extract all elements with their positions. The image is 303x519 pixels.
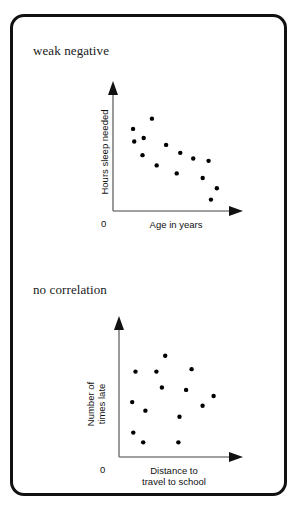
data-point	[141, 440, 145, 444]
scatter-plot-weak-negative: Hours sleep needed Age in years 0	[91, 79, 251, 239]
data-point	[164, 143, 168, 147]
x-axis-arrowhead	[229, 206, 243, 216]
data-point	[189, 367, 193, 371]
y-axis-arrowhead	[108, 81, 118, 95]
chart-title-no-correlation: no correlation	[33, 282, 107, 298]
data-point	[150, 116, 154, 120]
data-point	[175, 171, 179, 175]
x-axis-label-no-correlation: Distance to travel to school	[119, 465, 229, 487]
origin-label-weak-negative: 0	[101, 218, 106, 229]
chart-panel-no-correlation: no correlation Number of times late Dist…	[13, 258, 284, 496]
origin-label-no-correlation: 0	[100, 464, 105, 475]
data-point	[154, 163, 158, 167]
y-axis-label-no-correlation: Number of times late	[85, 354, 107, 454]
data-point	[177, 415, 181, 419]
data-point	[131, 430, 135, 434]
data-point	[176, 440, 180, 444]
data-point	[154, 369, 158, 373]
data-point	[132, 139, 136, 143]
diagram-card: weak negative Hours sleep needed Age in …	[10, 14, 287, 496]
x-axis-arrowhead	[229, 452, 243, 462]
y-axis-label-line-1: Number of	[85, 382, 96, 426]
data-point	[160, 385, 164, 389]
data-point	[163, 354, 167, 358]
data-point	[200, 404, 204, 408]
data-point	[178, 151, 182, 155]
data-point	[211, 394, 215, 398]
data-point	[131, 127, 135, 131]
x-axis-label-line-2: travel to school	[142, 476, 206, 487]
data-point-group	[131, 116, 219, 201]
data-point	[133, 369, 137, 373]
data-point	[143, 408, 147, 412]
data-point	[140, 153, 144, 157]
y-axis-arrowhead	[114, 316, 124, 330]
data-point	[209, 197, 213, 201]
data-point	[141, 136, 145, 140]
chart-panel-weak-negative: weak negative Hours sleep needed Age in …	[13, 17, 284, 258]
data-point	[191, 156, 195, 160]
scatter-svg-weak-negative	[91, 79, 251, 239]
x-axis-label-weak-negative: Age in years	[121, 219, 231, 230]
y-axis-label-weak-negative: Hours sleep needed	[99, 97, 110, 207]
x-axis-label-line-1: Distance to	[150, 465, 198, 476]
y-axis-label-line-2: times late	[96, 384, 107, 425]
data-point	[130, 400, 134, 404]
data-point	[184, 388, 188, 392]
data-point	[215, 186, 219, 190]
data-point	[206, 159, 210, 163]
scatter-plot-no-correlation: Number of times late Distance to travel …	[83, 314, 253, 494]
data-point	[200, 176, 204, 180]
chart-title-weak-negative: weak negative	[33, 43, 109, 59]
data-point-group	[130, 354, 216, 445]
